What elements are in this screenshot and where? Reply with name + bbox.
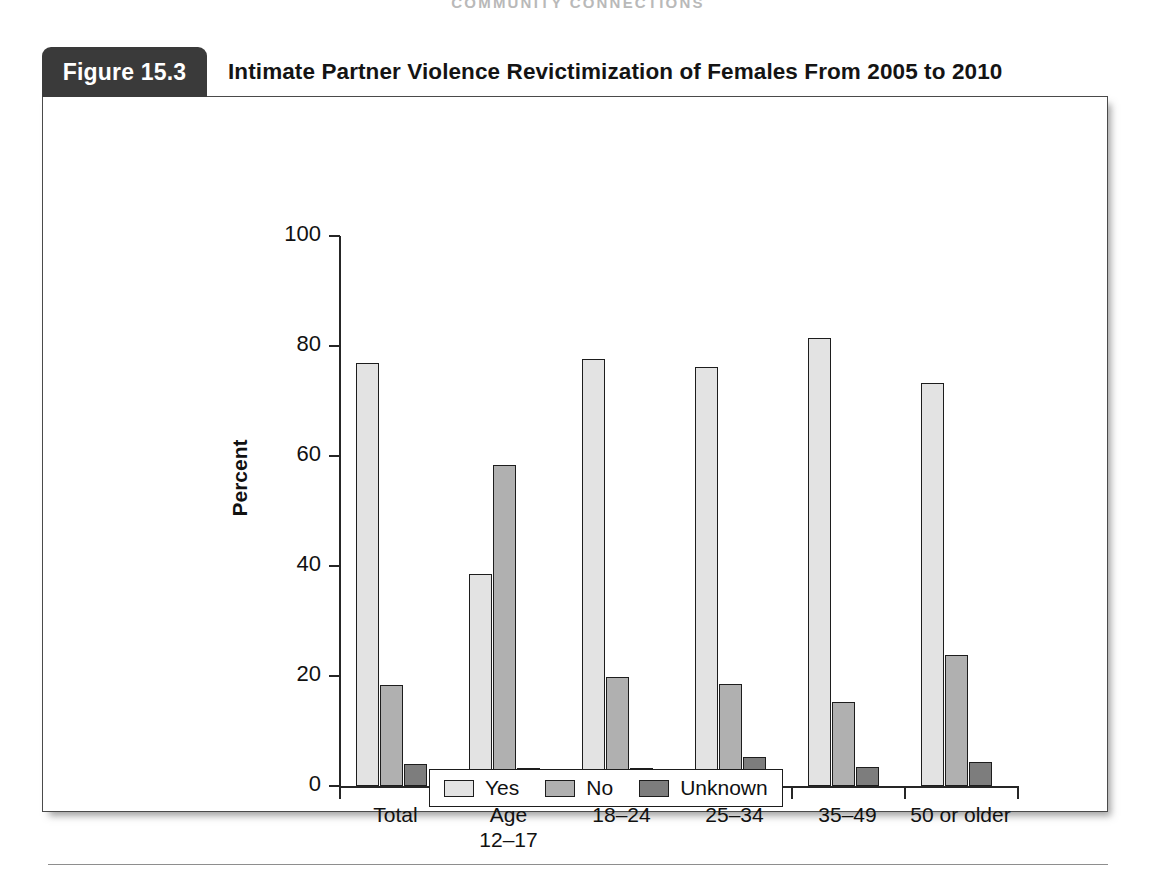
x-tick-mark <box>791 786 793 799</box>
legend-item: No <box>545 776 613 800</box>
y-axis-label: Percent <box>228 408 252 548</box>
bar-unknown <box>404 764 428 786</box>
y-tick-label: 60 <box>247 441 321 467</box>
bar-yes <box>808 338 832 786</box>
bar-yes <box>469 574 493 786</box>
chart-plot-area: Percent 020406080100 TotalAge 12–1718–24… <box>42 96 1108 812</box>
bar-no <box>945 655 969 786</box>
y-tick-label: 0 <box>247 771 321 797</box>
x-tick-label: 35–49 <box>791 802 904 827</box>
figure-number-tab: Figure 15.3 <box>42 47 207 97</box>
x-tick-mark <box>904 786 906 799</box>
bar-no <box>493 465 517 786</box>
x-tick-mark <box>339 786 341 799</box>
x-tick-mark <box>1017 786 1019 799</box>
chart-legend: YesNoUnknown <box>429 769 783 807</box>
y-tick-label: 80 <box>247 331 321 357</box>
bar-no <box>832 702 856 786</box>
figure-title: Intimate Partner Violence Revictimizatio… <box>228 50 1108 94</box>
legend-swatch-yes <box>444 780 474 797</box>
figure-number-label: Figure 15.3 <box>63 59 187 86</box>
y-tick-label: 40 <box>247 551 321 577</box>
legend-item: Yes <box>444 776 519 800</box>
legend-label: Yes <box>485 776 519 800</box>
bar-unknown <box>856 767 880 786</box>
bar-yes <box>921 383 945 786</box>
legend-label: Unknown <box>680 776 768 800</box>
legend-swatch-no <box>545 780 575 797</box>
bar-yes <box>356 363 380 787</box>
legend-label: No <box>586 776 613 800</box>
bar-series-layer <box>339 236 1017 786</box>
page-bottom-rule <box>48 864 1108 865</box>
x-axis-labels: TotalAge 12–1718–2425–3435–4950 or older <box>339 802 1017 872</box>
bar-yes <box>582 359 606 786</box>
y-tick-label: 20 <box>247 661 321 687</box>
bar-yes <box>695 367 719 786</box>
x-tick-label: Age 12–17 <box>452 802 565 852</box>
y-tick-label: 100 <box>247 221 321 247</box>
bar-no <box>380 685 404 786</box>
running-head: COMMUNITY CONNECTIONS <box>0 0 1156 11</box>
x-tick-label: 50 or older <box>904 802 1017 827</box>
legend-item: Unknown <box>639 776 768 800</box>
legend-swatch-unknown <box>639 780 669 797</box>
bar-unknown <box>969 762 993 786</box>
